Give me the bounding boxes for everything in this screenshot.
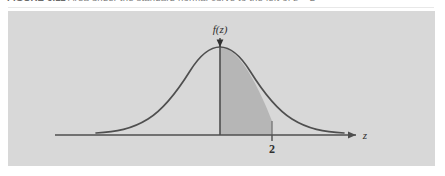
figure-caption-prefix: FIGURE 6.11 xyxy=(7,0,66,3)
z-axis-label: z xyxy=(362,129,368,141)
density-label: f(z) xyxy=(213,23,228,36)
plot-panel: f(z) z 2 xyxy=(8,11,435,166)
figure-root: FIGURE 6.11 Area under the standard norm… xyxy=(0,0,445,176)
caption-divider xyxy=(8,7,434,8)
density-label-arrowhead xyxy=(217,40,224,48)
normal-curve-chart: f(z) z 2 xyxy=(8,11,435,166)
figure-caption: FIGURE 6.11 Area under the standard norm… xyxy=(7,0,315,3)
figure-caption-clip: FIGURE 6.11 Area under the standard norm… xyxy=(0,0,445,6)
figure-caption-text: Area under the standard normal curve to … xyxy=(68,0,315,3)
z2-tick-label: 2 xyxy=(269,142,275,156)
z-axis-arrowhead xyxy=(348,131,356,138)
